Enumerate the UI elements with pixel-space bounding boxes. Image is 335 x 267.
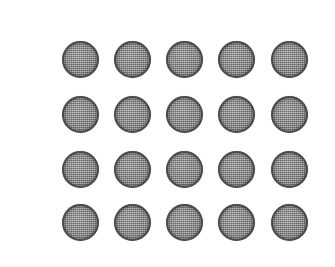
disc [166,151,203,188]
disc [218,151,255,188]
disc [62,151,99,188]
disc [114,151,151,188]
disc [62,204,99,241]
disc [271,204,308,241]
disc-grid-image [0,0,335,267]
disc [114,41,151,78]
disc [62,41,99,78]
disc [166,96,203,133]
disc [114,96,151,133]
disc [114,204,151,241]
disc [271,151,308,188]
disc-grid-container [0,0,335,267]
disc [218,96,255,133]
disc [271,41,308,78]
disc [166,41,203,78]
disc [62,96,99,133]
disc [218,204,255,241]
disc [166,204,203,241]
disc [271,96,308,133]
disc [218,41,255,78]
